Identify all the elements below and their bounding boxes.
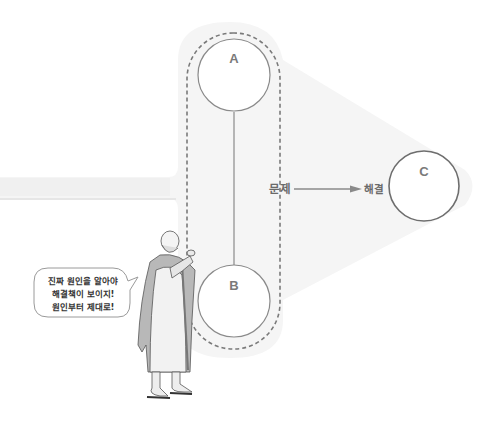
speech-bubble: 진짜 원인을 알아야 해결책이 보이지! 원인부터 제대로! [34,268,138,317]
speech-line-2: 해결책이 보이지! [52,289,115,299]
node-a-label: A [229,51,239,66]
speech-line-1: 진짜 원인을 알아야 [48,276,118,286]
node-c-label: C [419,164,429,179]
node-b-label: B [229,278,238,293]
node-b: B [198,265,270,337]
speech-line-3: 원인부터 제대로! [52,302,115,312]
diagram-svg: A B 문제 해결 C 진짜 원인을 알아야 해결책이 보이지! 원인부터 제대… [0,0,486,427]
solution-label: 해결 [364,183,384,195]
problem-label: 문제 [269,182,291,196]
node-a: A [198,39,270,111]
node-c: C [389,151,459,221]
diagram-canvas: A B 문제 해결 C 진짜 원인을 알아야 해결책이 보이지! 원인부터 제대… [0,0,486,427]
